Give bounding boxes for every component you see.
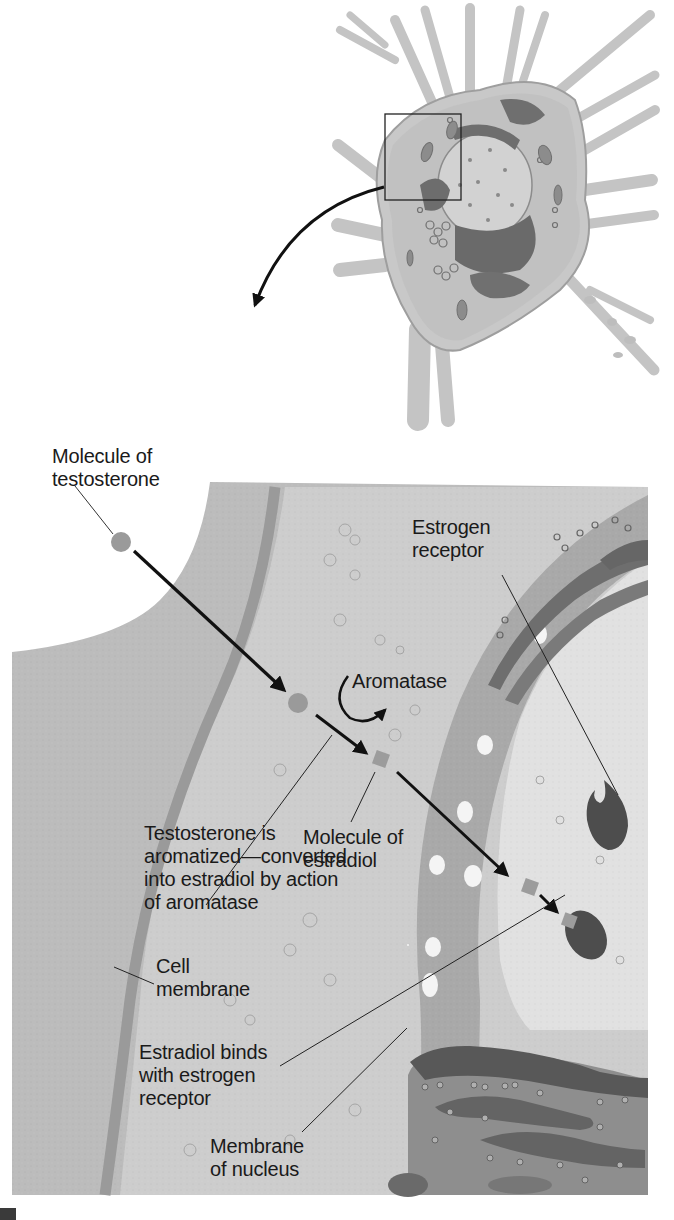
label-line: Estradiol binds	[139, 1041, 267, 1064]
label-line: of nucleus	[210, 1158, 304, 1181]
neuron-inset	[338, 8, 655, 420]
label-aromatase: Aromatase	[352, 670, 447, 693]
label-line: with estrogen	[139, 1064, 267, 1087]
label-line: Aromatase	[352, 670, 447, 693]
testosterone-molecule-outside	[111, 532, 131, 552]
label-cell-membrane: Cell membrane	[156, 955, 250, 1001]
label-line: membrane	[156, 978, 250, 1001]
label-line: of aromatase	[144, 891, 347, 914]
magnify-arrow	[255, 187, 384, 305]
label-nuclear-membrane: Membrane of nucleus	[210, 1135, 304, 1181]
label-line: Cell	[156, 955, 250, 978]
label-line: receptor	[139, 1087, 267, 1110]
label-estrogen-receptor: Estrogen receptor	[412, 516, 490, 562]
diagram-artwork	[0, 0, 674, 1220]
label-estradiol-binds: Estradiol binds with estrogen receptor	[139, 1041, 267, 1110]
label-aromatization: Testosterone is aromatized—converted int…	[144, 822, 347, 914]
label-line: testosterone	[52, 468, 160, 491]
label-line: Estrogen	[412, 516, 490, 539]
testosterone-molecule-inside	[288, 693, 308, 713]
label-line: Molecule of	[52, 445, 160, 468]
label-line: Membrane	[210, 1135, 304, 1158]
label-line: receptor	[412, 539, 490, 562]
label-line: into estradiol by action	[144, 868, 347, 891]
label-testosterone-molecule: Molecule of testosterone	[52, 445, 160, 491]
corner-mark	[0, 1208, 16, 1220]
label-line: Testosterone is	[144, 822, 347, 845]
label-line: aromatized—converted	[144, 845, 347, 868]
